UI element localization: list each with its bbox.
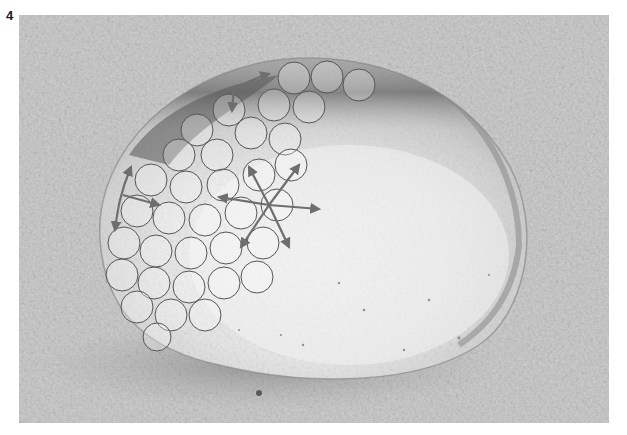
droplet-photo bbox=[19, 15, 609, 423]
figure-number: 4 bbox=[6, 8, 13, 23]
droplet-illustration bbox=[19, 15, 609, 423]
